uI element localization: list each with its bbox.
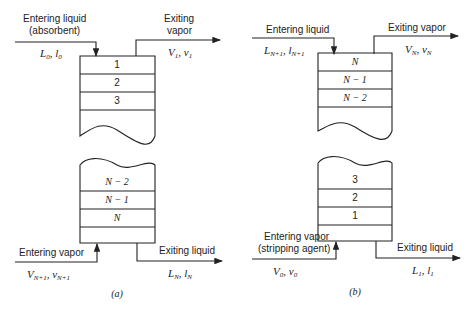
- entering-vapor-vars: VN+1, vN+1: [27, 268, 70, 282]
- column-diagrams: Entering liquid (absorbent) L0, l0 Exiti…: [0, 0, 476, 311]
- absorber-diagram: Entering liquid (absorbent) L0, l0 Exiti…: [15, 13, 222, 300]
- lower-column-section: 3 2 1: [318, 157, 392, 241]
- stage-label: N: [351, 56, 360, 67]
- stage-label: N − 2: [104, 176, 128, 187]
- stage-label: N: [113, 212, 122, 223]
- figure-caption-a: (a): [111, 288, 123, 300]
- stage-label: N − 1: [342, 74, 366, 85]
- stage-label: 2: [114, 77, 120, 88]
- exiting-vapor-vars: VN, vN: [405, 43, 432, 57]
- exiting-liquid-vars: L1, l1: [411, 264, 434, 278]
- entering-liquid-sublabel: (absorbent): [29, 25, 80, 36]
- entering-vapor-label: Entering vapor: [19, 247, 85, 258]
- stage-label: 1: [114, 59, 120, 70]
- exiting-liquid-vars: LN, lN: [167, 267, 192, 281]
- exiting-liquid-label: Exiting liquid: [159, 245, 215, 256]
- entering-liquid-vars: L0, l0: [39, 47, 62, 61]
- upper-column-section: N N − 1 N − 2: [318, 53, 392, 139]
- exiting-vapor-label: Exiting: [164, 13, 194, 24]
- stage-label: 3: [114, 95, 120, 106]
- entering-liquid-label: Entering liquid: [266, 24, 329, 35]
- figure-caption-b: (b): [349, 286, 361, 298]
- stage-label: N − 1: [104, 194, 128, 205]
- exiting-liquid-label: Exiting liquid: [397, 242, 453, 253]
- exiting-vapor-label: Exiting vapor: [388, 22, 446, 33]
- stage-label: 3: [352, 174, 358, 185]
- entering-vapor-sublabel: (stripping agent): [258, 243, 330, 254]
- entering-liquid-vars: LN+1, lN+1: [263, 44, 305, 58]
- entering-liquid-label: Entering liquid: [23, 13, 86, 24]
- lower-column-section: N − 2 N − 1 N: [80, 159, 155, 243]
- stage-label: 1: [352, 210, 358, 221]
- stripper-diagram: Entering liquid LN+1, lN+1 Exiting vapor…: [252, 22, 460, 298]
- entering-vapor-vars: V0, v0: [273, 265, 298, 279]
- entering-vapor-label: Entering vapor: [264, 231, 330, 242]
- upper-column-section: 1 2 3: [80, 56, 155, 144]
- stage-label: N − 2: [342, 92, 366, 103]
- exiting-vapor-vars: V1, v1: [168, 46, 192, 60]
- stage-label: 2: [352, 192, 358, 203]
- exiting-vapor-sublabel: vapor: [167, 25, 193, 36]
